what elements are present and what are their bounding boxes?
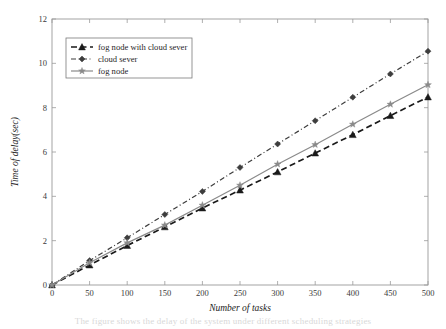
legend-entry-label: fog node [98, 66, 128, 76]
legend: fog node with cloud severcloud severfog … [66, 38, 192, 78]
y-tick-label: 6 [43, 147, 47, 157]
x-tick-label: 400 [346, 288, 359, 298]
delay-vs-tasks-line-chart: 050100150200250300350400450500024681012N… [0, 0, 446, 329]
y-tick-label: 0 [43, 280, 47, 290]
x-tick-label: 450 [384, 288, 397, 298]
legend-entry-label: fog node with cloud sever [98, 42, 187, 52]
x-tick-label: 150 [158, 288, 171, 298]
y-axis-title: Time of delay(sec) [10, 117, 21, 187]
legend-entry-label: cloud sever [98, 54, 138, 64]
x-tick-label: 350 [309, 288, 322, 298]
x-tick-label: 0 [50, 288, 54, 298]
x-tick-label: 200 [196, 288, 209, 298]
x-tick-label: 500 [422, 288, 435, 298]
y-tick-label: 8 [43, 103, 47, 113]
x-tick-label: 250 [234, 288, 247, 298]
scan-bleed-text: The figure shows the delay of the system… [0, 316, 446, 326]
y-tick-label: 2 [43, 236, 47, 246]
y-tick-label: 12 [39, 14, 48, 24]
x-tick-label: 100 [121, 288, 134, 298]
x-axis-title: Number of tasks [208, 303, 271, 313]
x-tick-label: 50 [85, 288, 94, 298]
x-tick-label: 300 [271, 288, 284, 298]
chart-figure: 050100150200250300350400450500024681012N… [0, 0, 446, 329]
y-tick-label: 10 [39, 58, 48, 68]
